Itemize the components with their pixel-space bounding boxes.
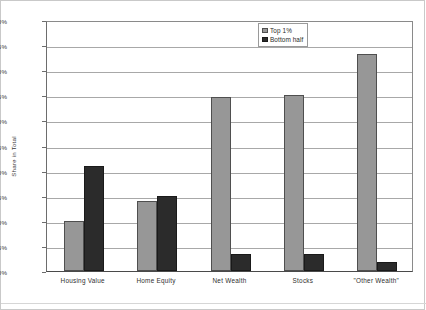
- chart-legend: Top 1%Bottom half: [258, 23, 308, 47]
- y-axis-title: Share in Total: [6, 101, 20, 211]
- gridline: [47, 47, 412, 48]
- figure-bottom-rule: [1, 303, 426, 304]
- y-axis-tick-label: 35%: [0, 93, 7, 100]
- bar-bottom-half: [304, 254, 324, 271]
- y-axis-tick-mark: [42, 96, 46, 97]
- y-axis-tick-label: 25%: [0, 143, 7, 150]
- legend-swatch-icon: [262, 37, 268, 43]
- legend-swatch-icon: [262, 28, 268, 34]
- bar-top1: [357, 54, 377, 271]
- bar-bottom-half: [84, 166, 104, 271]
- y-axis-tick-mark: [42, 247, 46, 248]
- y-axis-tick-mark: [42, 121, 46, 122]
- y-axis-title-text: Share in Total: [10, 136, 17, 177]
- y-axis-tick-mark: [42, 21, 46, 22]
- x-axis-tick-label: Housing Value: [61, 277, 105, 284]
- bar-top1: [211, 97, 231, 271]
- bar-bottom-half: [157, 196, 177, 271]
- legend-label: Bottom half: [270, 36, 303, 43]
- bar-bottom-half: [231, 254, 251, 271]
- legend-item[interactable]: Top 1%: [262, 26, 303, 35]
- bar-top1: [284, 95, 304, 271]
- x-axis-tick-label: Net Wealth: [213, 277, 247, 284]
- y-axis-tick-mark: [42, 71, 46, 72]
- x-axis-tick-label: Home Equity: [136, 277, 175, 284]
- plot-area: [46, 21, 413, 272]
- y-axis-tick-mark: [42, 222, 46, 223]
- y-axis-tick-label: 30%: [0, 118, 7, 125]
- y-axis-tick-label: 5%: [0, 243, 7, 250]
- y-axis-tick-label: 15%: [0, 193, 7, 200]
- legend-item[interactable]: Bottom half: [262, 35, 303, 44]
- y-axis-tick-label: 20%: [0, 168, 7, 175]
- y-axis-tick-label: 50%: [0, 18, 7, 25]
- bar-top1: [64, 221, 84, 271]
- y-axis-tick-mark: [42, 147, 46, 148]
- x-axis-tick-label: Stocks: [293, 277, 314, 284]
- bar-bottom-half: [377, 262, 397, 271]
- legend-label: Top 1%: [270, 27, 292, 34]
- y-axis-tick-mark: [42, 46, 46, 47]
- y-axis-tick-label: 45%: [0, 43, 7, 50]
- y-axis-tick-label: 10%: [0, 218, 7, 225]
- y-axis-tick-mark: [42, 272, 46, 273]
- y-axis-tick-label: 40%: [0, 68, 7, 75]
- y-axis-tick-label: 0%: [0, 269, 7, 276]
- y-axis-tick-mark: [42, 172, 46, 173]
- bar-top1: [137, 201, 157, 271]
- x-axis-tick-label: "Other Wealth": [354, 277, 400, 284]
- y-axis-tick-mark: [42, 197, 46, 198]
